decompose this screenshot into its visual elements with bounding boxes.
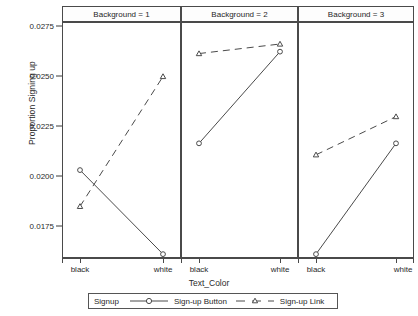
data-point-marker (393, 114, 398, 119)
legend-key-solid-circle-icon (129, 296, 169, 306)
data-point-marker (197, 141, 202, 146)
data-point-marker (313, 152, 318, 157)
data-point-marker (277, 41, 282, 46)
x-tick-mark-p0-white (163, 258, 164, 263)
x-tick-mark-p2-left (298, 258, 299, 263)
interaction-plot: Proportion Signing up 0.0275 0.0250 0.02… (0, 0, 418, 316)
x-tick-label-p0-white: white (154, 265, 173, 274)
data-point-marker (78, 168, 83, 173)
x-tick-mark-p0-black (80, 258, 81, 263)
panel-1-plot-area (63, 23, 180, 257)
series-line-sign-up-link (316, 117, 396, 155)
y-tick-label-0250: 0.0250 (30, 71, 54, 80)
x-tick-mark-p2-white (396, 258, 397, 263)
facet-panel-title-1: Background = 1 (93, 10, 149, 19)
facet-panel-title-3: Background = 3 (328, 10, 384, 19)
panel-2-plot-area (182, 23, 297, 257)
y-axis-ticks: 0.0275 0.0250 0.0225 0.0200 0.0175 (0, 0, 66, 316)
data-point-marker (314, 252, 319, 257)
data-point-marker (161, 252, 166, 257)
legend-box: Signup Sign-up Button Sign-up Link (88, 293, 338, 309)
facet-panel-header-3: Background = 3 (298, 6, 414, 22)
facet-panel-background-3: Background = 3 (298, 22, 414, 258)
legend-entry-sign-up-link: Sign-up Link (235, 296, 332, 306)
x-tick-label-p2-white: white (394, 265, 413, 274)
y-tick-label-0175: 0.0175 (30, 222, 54, 231)
x-tick-mark-p1-white (280, 258, 281, 263)
y-tick-label-0200: 0.0200 (30, 172, 54, 181)
x-tick-mark-p2-black (316, 258, 317, 263)
facet-panel-header-2: Background = 2 (181, 6, 298, 22)
legend-label-sign-up-button: Sign-up Button (174, 297, 227, 306)
facet-panel-background-1: Background = 1 (62, 22, 181, 258)
x-tick-mark-p2-right (413, 258, 414, 263)
x-tick-label-p1-white: white (271, 265, 290, 274)
data-point-marker (394, 141, 399, 146)
y-tick-label-0225: 0.0225 (30, 121, 54, 130)
series-line-sign-up-link (199, 44, 280, 54)
x-tick-label-p1-black: black (190, 265, 209, 274)
facet-panel-background-2: Background = 2 (181, 22, 298, 258)
data-point-marker (160, 74, 165, 79)
data-point-marker (278, 49, 283, 54)
x-tick-label-p2-black: black (307, 265, 326, 274)
facet-panel-title-2: Background = 2 (211, 10, 267, 19)
x-tick-mark-p1-black (199, 258, 200, 263)
data-point-marker (77, 204, 82, 209)
y-tick-label-0275: 0.0275 (30, 21, 54, 30)
series-line-sign-up-button (80, 170, 163, 254)
series-line-sign-up-button (199, 52, 280, 144)
x-tick-mark-p1-left (181, 258, 182, 263)
x-axis-label: Text_Color (0, 278, 418, 288)
legend-key-dashed-triangle-icon (235, 296, 275, 306)
facet-panel-header-1: Background = 1 (62, 6, 181, 22)
x-axis-line (62, 258, 414, 259)
data-point-marker (196, 51, 201, 56)
x-tick-label-p0-black: black (71, 265, 90, 274)
legend-label-sign-up-link: Sign-up Link (280, 297, 324, 306)
series-line-sign-up-button (316, 143, 396, 254)
x-tick-mark-p0-left (62, 258, 63, 263)
legend-title: Signup (94, 297, 129, 306)
legend-entry-sign-up-button: Sign-up Button (129, 296, 235, 306)
panel-3-plot-area (299, 23, 413, 257)
series-line-sign-up-link (80, 76, 163, 206)
